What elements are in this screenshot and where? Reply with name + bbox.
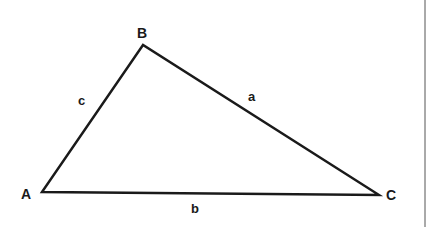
vertex-label-b: B xyxy=(137,25,147,41)
side-label-b: b xyxy=(191,201,199,216)
triangle-abc xyxy=(42,45,379,195)
side-label-c: c xyxy=(78,93,85,108)
triangle-diagram: B A C c a b xyxy=(0,0,427,227)
vertex-label-c: C xyxy=(386,187,396,203)
side-label-a: a xyxy=(248,89,256,104)
vertex-label-a: A xyxy=(21,186,31,202)
